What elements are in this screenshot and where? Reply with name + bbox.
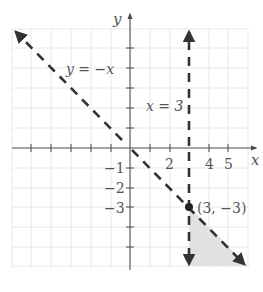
point-label: (3, −3) xyxy=(197,200,246,216)
y-tick-label-neg2: −2 xyxy=(104,180,125,196)
x-tick-label-4: 4 xyxy=(205,156,214,172)
x-tick-label-5: 5 xyxy=(224,156,233,172)
y-tick-label-neg3: −3 xyxy=(104,200,125,216)
label-y-equals-neg-x: y = −x xyxy=(65,61,114,77)
coordinate-graph: y x 2 4 5 −1 −2 −3 y = −x x = 3 (3, −3) xyxy=(0,0,263,292)
y-tick-label-neg1: −1 xyxy=(104,160,125,176)
x-axis-label: x xyxy=(251,151,260,169)
x-tick-label-2: 2 xyxy=(165,156,174,172)
y-axis-label: y xyxy=(112,10,122,28)
intersection-point xyxy=(185,203,193,211)
label-x-equals-3: x = 3 xyxy=(146,98,184,114)
